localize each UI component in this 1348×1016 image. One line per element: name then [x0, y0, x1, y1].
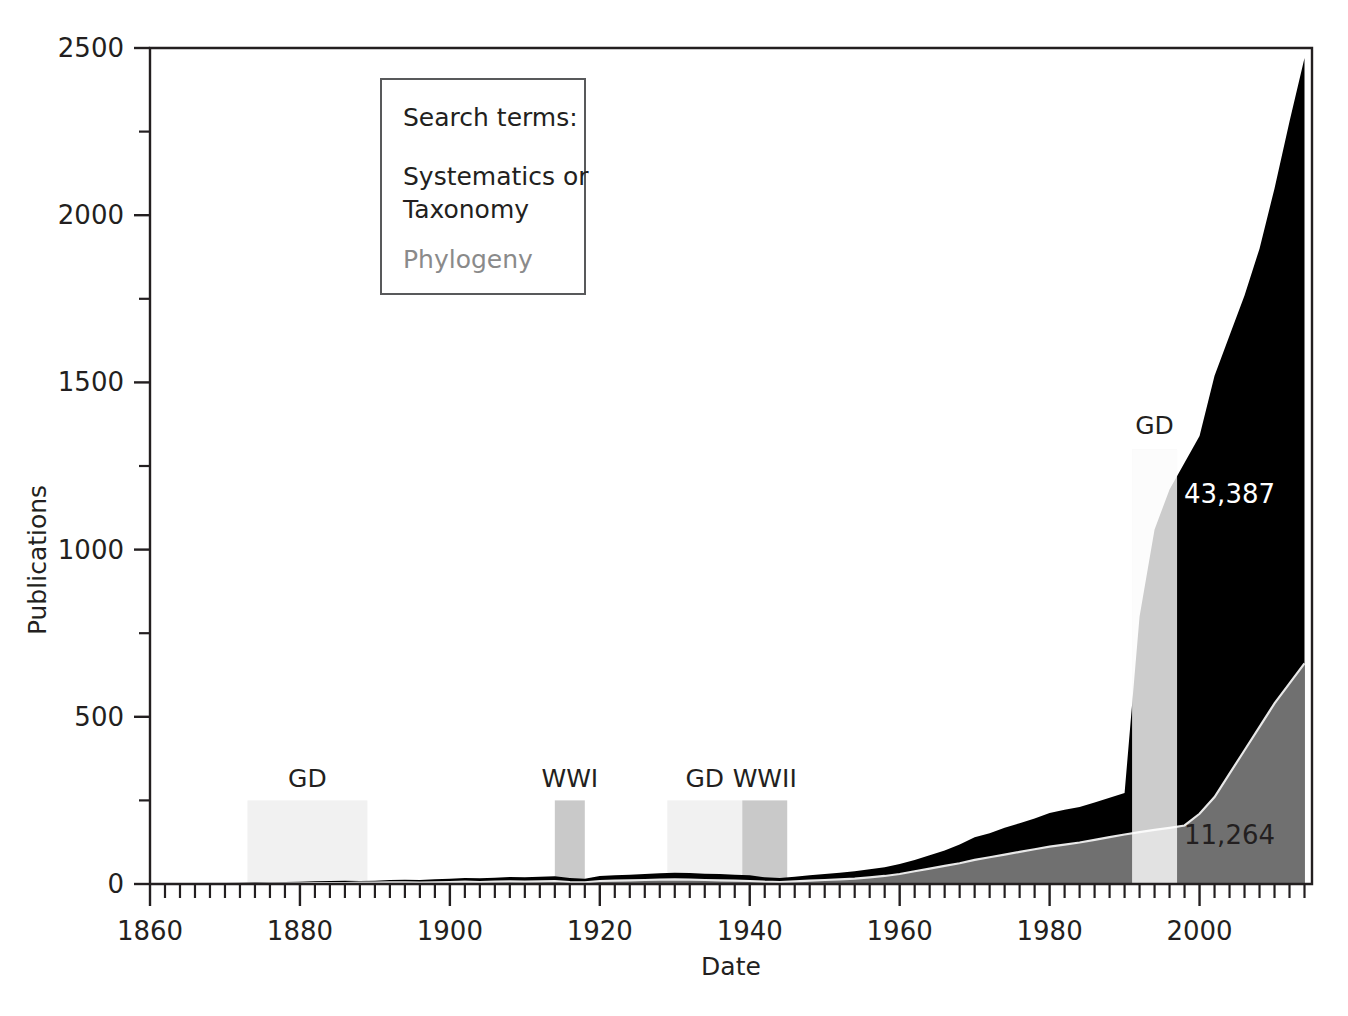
event-band-label-gd-2: GD [685, 764, 724, 793]
y-axis-title: Publications [23, 485, 52, 635]
x-axis-title: Date [701, 952, 761, 981]
event-band-overlay-gd [1132, 449, 1177, 884]
legend-title: Search terms: [403, 103, 578, 132]
x-tick-label: 2000 [1166, 916, 1232, 946]
x-tick-label: 1920 [567, 916, 633, 946]
chart-figure: 05001000150020002500 1860188019001920194… [0, 0, 1348, 1016]
event-band-gd-2 [667, 800, 742, 884]
legend-entry-systematics-line1: Systematics or [403, 162, 589, 191]
x-tick-label: 1860 [117, 916, 183, 946]
y-tick-label: 2500 [58, 33, 124, 63]
event-bands-overlay [1132, 449, 1177, 884]
value-annotation-11264: 11,264 [1184, 820, 1275, 850]
legend-entry-phylogeny: Phylogeny [403, 245, 533, 274]
x-tick-label: 1900 [417, 916, 483, 946]
y-tick-label: 1500 [58, 367, 124, 397]
event-band-label-gd-0: GD [288, 764, 327, 793]
legend-entry-systematics-line2: Taxonomy [402, 195, 529, 224]
event-band-wwii-3 [742, 800, 787, 884]
x-tick-label: 1880 [267, 916, 333, 946]
y-tick-label: 2000 [58, 200, 124, 230]
event-band-label-gd-4: GD [1135, 411, 1174, 440]
x-tick-label: 1940 [717, 916, 783, 946]
y-tick-label: 0 [107, 869, 124, 899]
y-tick-label: 1000 [58, 535, 124, 565]
event-band-label-wwii-3: WWII [733, 764, 797, 793]
event-band-gd-0 [247, 800, 367, 884]
value-annotation-43387: 43,387 [1184, 479, 1275, 509]
publications-area-chart: 05001000150020002500 1860188019001920194… [0, 0, 1348, 1016]
x-tick-label: 1980 [1017, 916, 1083, 946]
legend: Search terms: Systematics or Taxonomy Ph… [381, 79, 589, 294]
event-band-label-wwi-1: WWI [541, 764, 598, 793]
event-band-wwi-1 [555, 800, 585, 884]
y-tick-label: 500 [74, 702, 124, 732]
x-tick-label: 1960 [867, 916, 933, 946]
